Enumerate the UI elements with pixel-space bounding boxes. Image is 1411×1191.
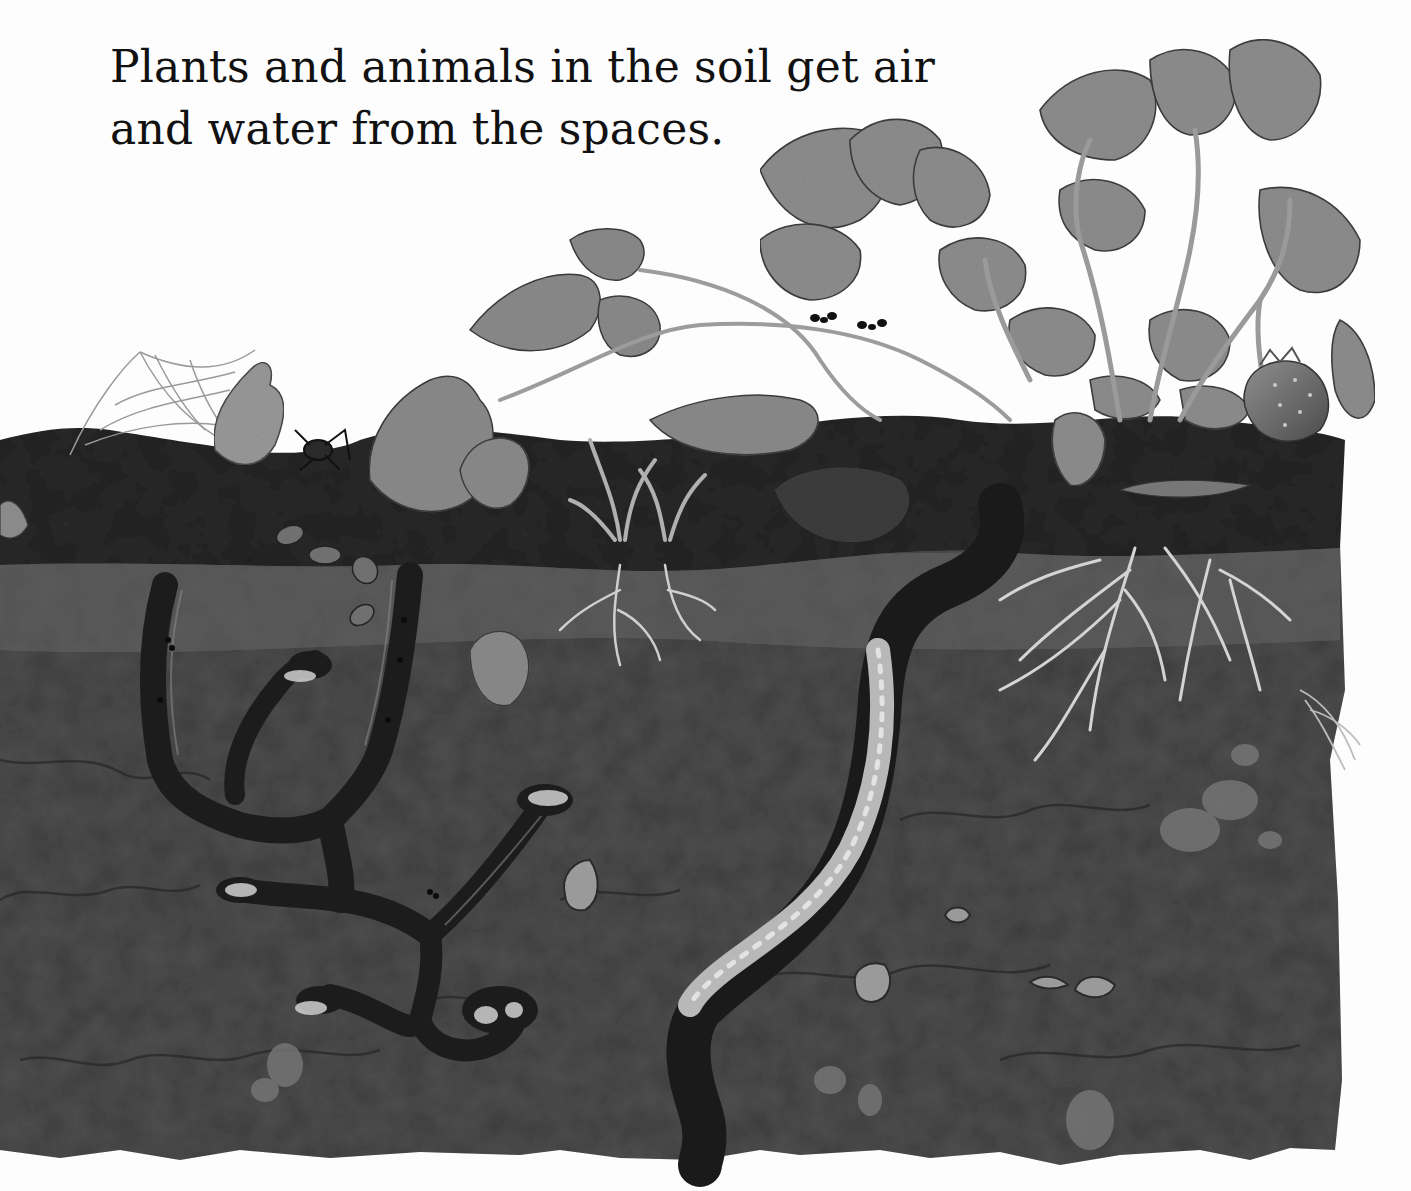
soil-cross-section-illustration (0, 0, 1411, 1191)
page-caption: Plants and animals in the soil get air a… (110, 36, 970, 160)
dried-leaf (214, 363, 284, 465)
caption-line-2: and water from the spaces. (110, 98, 970, 160)
book-page: Plants and animals in the soil get air a… (0, 0, 1411, 1191)
strawberry-stems (985, 130, 1290, 420)
ants-on-runner (810, 312, 887, 330)
caption-line-1: Plants and animals in the soil get air (110, 36, 970, 98)
strawberry-fruit (1244, 348, 1329, 441)
